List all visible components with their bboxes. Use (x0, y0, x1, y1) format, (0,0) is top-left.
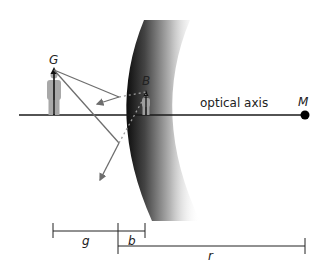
image-label-B: B (142, 74, 150, 88)
object-label-G: G (49, 53, 58, 67)
convex-mirror (126, 20, 200, 221)
radius-label-r: r (208, 249, 214, 263)
center-point-M (301, 111, 310, 120)
center-label-M: M (298, 95, 309, 109)
optical-axis-label: optical axis (200, 96, 268, 110)
convex-mirror-diagram: G B optical axis M g b r (0, 0, 327, 271)
image-distance-label-b: b (128, 234, 136, 248)
object-distance-label-g: g (82, 234, 90, 248)
dimension-lines (53, 223, 305, 254)
